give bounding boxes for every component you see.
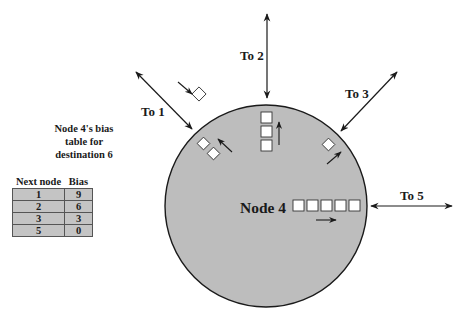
title-line-1: Node 4's bias [40, 122, 128, 135]
cell-bias: 3 [65, 213, 93, 225]
table-row: 2 6 [13, 201, 93, 213]
table-header-row: Next node Bias [13, 175, 93, 189]
direction-arrow-link-1 [178, 82, 192, 94]
cell-bias: 6 [65, 201, 93, 213]
link-to-1-label: To 1 [141, 104, 165, 119]
link-to-3-label: To 3 [345, 86, 369, 101]
link-to-3-arrow [341, 72, 397, 131]
header-next-node: Next node [13, 175, 65, 189]
packet-in-transit-1 [192, 87, 206, 101]
table-row: 1 9 [13, 189, 93, 201]
cell-next-node: 1 [13, 189, 65, 201]
cell-bias: 0 [65, 225, 93, 237]
header-bias: Bias [65, 175, 93, 189]
queue-to-5 [293, 200, 360, 211]
cell-bias: 9 [65, 189, 93, 201]
node-4-label: Node 4 [240, 199, 286, 216]
bias-table: Next node Bias 1 9 2 6 3 3 5 0 [12, 175, 93, 237]
queue-to-2 [261, 112, 272, 151]
cell-next-node: 3 [13, 213, 65, 225]
link-to-2-label: To 2 [240, 48, 264, 63]
bias-table-title: Node 4's bias table for destination 6 [40, 122, 128, 161]
title-line-2: table for [40, 135, 128, 148]
table-row: 3 3 [13, 213, 93, 225]
table-row: 5 0 [13, 225, 93, 237]
title-line-3: destination 6 [40, 148, 128, 161]
cell-next-node: 2 [13, 201, 65, 213]
cell-next-node: 5 [13, 225, 65, 237]
link-to-5-label: To 5 [400, 188, 424, 203]
link-to-1-arrow [136, 72, 192, 129]
